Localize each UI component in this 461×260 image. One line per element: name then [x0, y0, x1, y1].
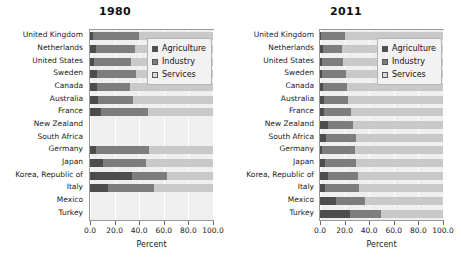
- bar-segment-ind: [93, 32, 139, 40]
- chart-panel-1980: 1980 United KingdomNetherlandsUnited Sta…: [0, 0, 230, 260]
- category-label: Mexico: [0, 196, 83, 204]
- stacked-bar: [90, 184, 213, 192]
- bar-segment-ind: [323, 83, 347, 91]
- bar-segment-agri: [90, 83, 97, 91]
- bar-segment-agri: [320, 172, 328, 180]
- bar-segment-ind: [328, 121, 353, 129]
- bar-segment-serv: [355, 146, 443, 154]
- bar-row: [320, 108, 443, 116]
- stacked-bar: [320, 184, 443, 192]
- axis-tick: [418, 221, 419, 225]
- chart-panel-2011: 2011 United KingdomNetherlandsUnited Sta…: [231, 0, 461, 260]
- stacked-bar: [320, 197, 443, 205]
- legend-item-industry: Industry: [152, 55, 206, 68]
- category-label: South Africa: [230, 133, 314, 141]
- axis-tick: [90, 221, 91, 225]
- legend-item-agriculture: Agriculture: [152, 42, 206, 55]
- stacked-bar: [320, 159, 443, 167]
- panel-title-1980: 1980: [0, 5, 230, 18]
- category-label: Korea, Republic of: [230, 171, 314, 179]
- bar-segment-ind: [132, 172, 167, 180]
- category-label: United Kingdom: [230, 31, 314, 39]
- x-axis-title-2011: Percent: [319, 240, 444, 249]
- legend-label-agriculture: Agriculture: [392, 44, 436, 53]
- category-label: Japan: [230, 158, 314, 166]
- category-label: Australia: [230, 95, 314, 103]
- stacked-bar: [320, 96, 443, 104]
- stacked-bar: [90, 96, 213, 104]
- category-label: Italy: [230, 183, 314, 191]
- legend-item-services: Services: [152, 68, 206, 81]
- bar-segment-ind: [96, 45, 135, 53]
- bar-segment-ind: [97, 70, 136, 78]
- bar-segment-ind: [321, 32, 344, 40]
- category-label: Netherlands: [0, 44, 83, 52]
- category-label: France: [0, 107, 83, 115]
- category-label: Germany: [0, 145, 83, 153]
- category-label: Canada: [0, 82, 83, 90]
- bar-row: [320, 159, 443, 167]
- bar-segment-ind: [325, 159, 356, 167]
- bar-row: [320, 121, 443, 129]
- bar-segment-ind: [336, 197, 365, 205]
- bar-segment-serv: [358, 172, 443, 180]
- bar-segment-agri: [320, 197, 336, 205]
- axis-tick-label: 100.0: [196, 226, 230, 235]
- legend-label-agriculture: Agriculture: [162, 44, 206, 53]
- legend-swatch-agriculture-icon: [152, 46, 158, 52]
- bar-row: [90, 108, 213, 116]
- bar-segment-agri: [320, 210, 350, 218]
- bar-segment-serv: [351, 108, 443, 116]
- category-label: Mexico: [230, 196, 314, 204]
- employment-by-sector-figure: 1980 United KingdomNetherlandsUnited Sta…: [0, 0, 461, 260]
- bar-segment-agri: [90, 96, 98, 104]
- bar-row: [90, 210, 213, 218]
- category-axis-2011: United KingdomNetherlandsUnited StatesSw…: [231, 29, 317, 221]
- axis-tick-label: 100.0: [426, 226, 460, 235]
- legend-swatch-industry-icon: [382, 59, 388, 65]
- bar-row: [90, 134, 213, 142]
- category-label: New Zealand: [0, 120, 83, 128]
- legend-swatch-industry-icon: [152, 59, 158, 65]
- category-label: United States: [230, 57, 314, 65]
- bar-segment-serv: [167, 172, 213, 180]
- bar-segment-ind: [322, 146, 355, 154]
- bar-segment-ind: [323, 45, 342, 53]
- legend-label-services: Services: [162, 70, 196, 79]
- plot-area-1980: Agriculture Industry Services: [89, 29, 214, 221]
- legend-item-industry: Industry: [382, 55, 436, 68]
- stacked-bar: [320, 134, 443, 142]
- panel-title-2011: 2011: [231, 5, 461, 18]
- legend-swatch-agriculture-icon: [382, 46, 388, 52]
- legend-label-services: Services: [392, 70, 426, 79]
- bar-row: [90, 172, 213, 180]
- bar-segment-ind: [326, 134, 356, 142]
- legend-item-agriculture: Agriculture: [382, 42, 436, 55]
- stacked-bar: [90, 172, 213, 180]
- bar-segment-serv: [359, 184, 443, 192]
- stacked-bar: [320, 210, 443, 218]
- axis-tick: [188, 221, 189, 225]
- bar-row: [320, 184, 443, 192]
- bar-segment-serv: [133, 96, 213, 104]
- bar-segment-ind: [97, 83, 130, 91]
- category-label: Canada: [230, 82, 314, 90]
- bar-segment-serv: [154, 184, 213, 192]
- bar-row: [90, 184, 213, 192]
- bar-segment-ind: [98, 96, 133, 104]
- x-axis-labels-2011: 0.020.040.060.080.0100.0: [291, 226, 461, 238]
- bar-row: [90, 197, 213, 205]
- stacked-bar: [90, 146, 213, 154]
- axis-tick: [394, 221, 395, 225]
- bar-segment-serv: [353, 121, 443, 129]
- category-label: Japan: [0, 158, 83, 166]
- bar-segment-agri: [90, 159, 103, 167]
- bar-segment-ind: [101, 108, 148, 116]
- bar-row: [90, 159, 213, 167]
- bar-segment-agri: [320, 121, 328, 129]
- bar-segment-serv: [381, 210, 443, 218]
- category-label: Sweden: [0, 69, 83, 77]
- bar-segment-ind: [350, 210, 382, 218]
- axis-tick: [320, 221, 321, 225]
- bar-row: [320, 134, 443, 142]
